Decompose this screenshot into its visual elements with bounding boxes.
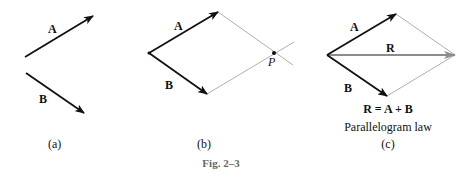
caption-b: (b) [197, 137, 211, 151]
vector-a-arrow [149, 12, 218, 53]
vector-a-arrow [25, 16, 93, 57]
construction-line-bottom [387, 55, 455, 96]
vector-b-arrow [327, 55, 387, 96]
vector-b-label: B [39, 92, 47, 106]
vector-b-label: B [165, 78, 173, 92]
resultant-label: R [386, 41, 395, 55]
vector-a-label: A [48, 22, 57, 36]
origin-point [147, 51, 150, 54]
construction-line-from-a [218, 12, 293, 65]
vector-b-arrow [149, 53, 207, 94]
panel-a: A B (a) [25, 16, 93, 151]
vector-a-label: A [350, 20, 359, 34]
panel-c: A R B R = A + B Parallelogram law (c) [327, 14, 455, 151]
equation: R = A + B [363, 102, 413, 116]
caption-a: (a) [48, 137, 61, 151]
vector-a-label: A [174, 19, 183, 33]
caption-c: (c) [381, 137, 394, 151]
point-p-label: P [267, 55, 276, 69]
panel-b: P A B (b) [147, 12, 294, 151]
construction-line-from-b [207, 42, 294, 94]
vector-b-arrow [26, 73, 84, 113]
vector-b-label: B [344, 81, 352, 95]
figure-caption: Fig. 2–3 [202, 157, 240, 169]
parallelogram-figure: A B (a) P A B (b) A R B R = A + B Parall… [0, 0, 474, 173]
construction-line-top [396, 14, 455, 55]
parallelogram-law-title: Parallelogram law [344, 120, 432, 134]
